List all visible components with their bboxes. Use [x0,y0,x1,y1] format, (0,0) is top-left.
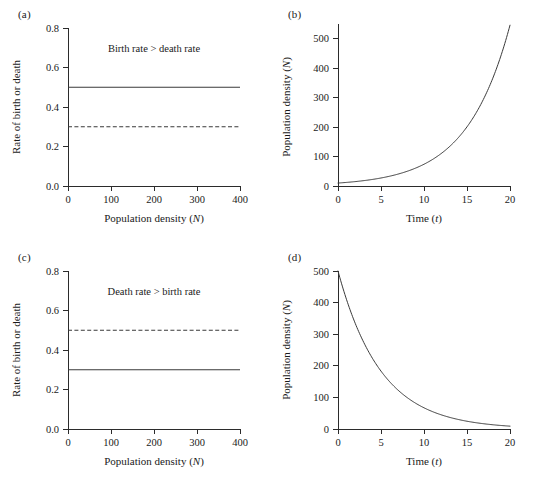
panel-c-x-ticklabels: 0 100 200 300 400 [65,437,248,448]
ytick-2: 0.4 [46,102,60,113]
ytick-3: 0.6 [46,305,59,316]
xtick-0: 0 [335,194,340,205]
panel-d-decay-curve [338,271,510,426]
panel-a-plot: 0.0 0.2 0.4 0.6 0.8 0 100 200 300 400 [0,0,270,242]
panel-d: (d) 0 100 200 300 400 500 [270,243,540,485]
xtick-2: 200 [146,194,162,205]
xtick-4: 20 [505,194,516,205]
panel-a-y-ticklabels: 0.0 0.2 0.4 0.6 0.8 [46,23,60,192]
ytick-2: 200 [313,122,329,133]
ytick-1: 100 [313,392,329,403]
panel-d-x-ticks [338,429,510,434]
panel-c: (c) 0.0 0.2 0.4 0.6 0.8 [0,243,270,485]
panel-b-y-ticks [333,39,338,187]
panel-c-y-axis-title: Rate of birth or death [10,302,22,397]
ytick-4: 400 [313,63,329,74]
population-dynamics-figure: (a) 0.0 0.2 0.4 0.6 0.8 [0,0,540,485]
ytick-1: 0.2 [46,141,59,152]
panel-a-y-ticks [63,28,68,186]
panel-a-x-ticks [68,186,240,191]
xtick-3: 300 [189,437,205,448]
panel-c-y-ticklabels: 0.0 0.2 0.4 0.6 0.8 [46,266,60,435]
xtick-4: 400 [232,437,248,448]
panel-d-y-ticklabels: 0 100 200 300 400 500 [313,266,329,435]
panel-c-x-ticks [68,429,240,434]
xtick-1: 100 [103,437,119,448]
ytick-4: 0.8 [46,23,59,34]
panel-b-growth-curve [338,25,510,183]
panel-a-x-axis-title: Population density (N) [104,212,204,225]
xtick-2: 10 [419,437,430,448]
panel-d-plot: 0 100 200 300 400 500 0 5 10 15 20 [270,243,540,485]
ytick-2: 0.4 [46,345,60,356]
xtick-4: 20 [505,437,516,448]
panel-b-x-ticklabels: 0 5 10 15 20 [335,194,515,205]
ytick-1: 0.2 [46,384,59,395]
xtick-3: 15 [462,437,473,448]
panel-b-y-axis-title: Population density (N) [280,57,293,157]
xtick-3: 15 [462,194,473,205]
ytick-0: 0.0 [46,424,59,435]
ytick-0: 0.0 [46,181,59,192]
ytick-4: 400 [313,297,329,308]
panel-a-y-axis-title: Rate of birth or death [10,59,22,154]
xtick-4: 400 [232,194,248,205]
xtick-1: 5 [378,194,383,205]
xtick-2: 10 [419,194,430,205]
panel-c-annotation: Death rate > birth rate [108,286,201,297]
xtick-1: 5 [378,437,383,448]
panel-a-annotation: Birth rate > death rate [108,43,201,54]
ytick-3: 300 [313,92,329,103]
panel-c-y-ticks [63,271,68,429]
ytick-1: 100 [313,151,329,162]
panel-a-x-ticklabels: 0 100 200 300 400 [65,194,248,205]
panel-a: (a) 0.0 0.2 0.4 0.6 0.8 [0,0,270,242]
panel-d-y-axis-title: Population density (N) [280,300,293,400]
ytick-5: 500 [313,266,329,277]
panel-b: (b) 0 100 200 300 400 500 [270,0,540,242]
xtick-3: 300 [189,194,205,205]
panel-d-x-ticklabels: 0 5 10 15 20 [335,437,515,448]
xtick-0: 0 [335,437,340,448]
panel-b-x-ticks [338,186,510,191]
panel-d-y-ticks [333,271,338,429]
xtick-2: 200 [146,437,162,448]
xtick-0: 0 [65,437,70,448]
panel-d-x-axis-title: Time (t) [406,455,442,468]
panel-c-x-axis-title: Population density (N) [104,455,204,468]
panel-b-x-axis-title: Time (t) [406,212,442,225]
xtick-0: 0 [65,194,70,205]
ytick-0: 0 [324,424,329,435]
ytick-3: 300 [313,329,329,340]
ytick-2: 200 [313,360,329,371]
ytick-0: 0 [324,181,329,192]
panel-b-y-ticklabels: 0 100 200 300 400 500 [313,33,329,192]
panel-b-plot: 0 100 200 300 400 500 0 5 10 15 20 [270,0,540,242]
ytick-3: 0.6 [46,62,59,73]
panel-c-plot: 0.0 0.2 0.4 0.6 0.8 0 100 200 300 400 [0,243,270,485]
xtick-1: 100 [103,194,119,205]
ytick-5: 500 [313,33,329,44]
ytick-4: 0.8 [46,266,59,277]
